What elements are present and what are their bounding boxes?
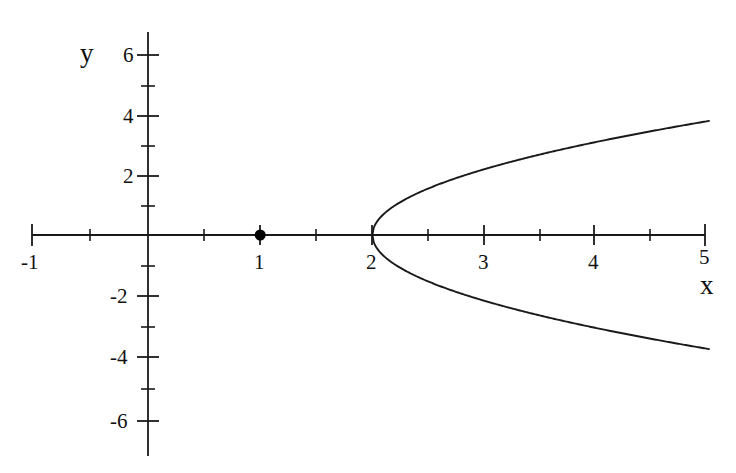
- x-tick-label-5: 5: [699, 247, 710, 268]
- plot-canvas: [0, 0, 736, 473]
- x-tick-label-minus-1: -1: [21, 252, 39, 273]
- y-tick-label-minus-2: -2: [110, 286, 128, 307]
- focus-point-marker: [255, 230, 266, 241]
- y-tick-label-minus-4: -4: [110, 347, 128, 368]
- y-tick-label-4: 4: [123, 106, 134, 127]
- y-tick-label-6: 6: [123, 45, 134, 66]
- y-tick-label-2: 2: [123, 166, 134, 187]
- y-axis-name: y: [80, 40, 94, 67]
- x-tick-label-4: 4: [588, 252, 599, 273]
- x-tick-label-2: 2: [366, 252, 377, 273]
- y-tick-label-minus-6: -6: [110, 411, 128, 432]
- x-tick-label-3: 3: [478, 252, 489, 273]
- parabola-chart-figure: y x 6 4 2 -2 -4 -6 -1 1 2 3 4 5: [0, 0, 736, 473]
- x-axis-name: x: [700, 272, 714, 299]
- x-tick-label-1: 1: [254, 252, 265, 273]
- parabola-lower-branch: [372, 235, 709, 349]
- parabola-upper-branch: [372, 121, 709, 235]
